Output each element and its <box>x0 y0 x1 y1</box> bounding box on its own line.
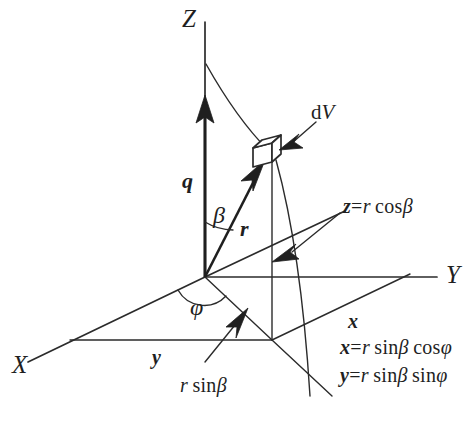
component-label-x: x <box>348 311 358 331</box>
component-label-y: y <box>152 347 161 367</box>
leader-dv <box>279 122 316 150</box>
callout-volume-element: dV <box>311 102 334 123</box>
vector-label-q: q <box>182 170 193 192</box>
z-comp-fn: cos <box>375 195 403 217</box>
eq-x-fn1: sin <box>374 336 398 358</box>
equation-y: y=r sinβ sinφ <box>340 365 448 385</box>
vector-q <box>196 95 214 277</box>
z-comp-arg: β <box>403 195 413 217</box>
z-comp-r: r <box>363 195 371 217</box>
vector-label-r: r <box>240 218 249 240</box>
eq-y-fn2: sin <box>412 364 436 386</box>
eq-y-lhs: y <box>340 364 349 386</box>
leader-z-component <box>272 213 340 262</box>
angle-label-beta: β <box>213 203 225 227</box>
base-edge-x <box>272 274 410 340</box>
eq-y-eq: = <box>349 364 361 386</box>
dv-d: d <box>311 100 322 124</box>
eq-x-r: r <box>362 336 370 358</box>
proj-r: r <box>180 374 188 396</box>
meridian-arc-lower <box>276 160 310 396</box>
dv-v: V <box>322 100 335 124</box>
callout-projection: r sinβ <box>180 375 227 395</box>
axis-label-x: X <box>12 352 27 377</box>
spherical-coordinates-figure: Z Y X q r β φ x y dV z=r cosβ r sinβ x=r… <box>0 0 476 427</box>
eq-x-lhs: x <box>340 336 350 358</box>
eq-x-arg1: β <box>399 336 409 358</box>
axis-label-z: Z <box>182 6 196 31</box>
eq-y-arg2: φ <box>436 364 447 386</box>
angle-label-phi: φ <box>190 295 203 319</box>
callout-z-component: z=r cosβ <box>343 196 413 216</box>
equation-x: x=r sinβ cosφ <box>340 337 452 357</box>
eq-x-fn2: cos <box>413 336 441 358</box>
z-comp-eq: = <box>351 195 363 217</box>
meridian-arc-upper <box>206 64 268 150</box>
proj-arg: β <box>217 374 227 396</box>
eq-y-arg1: β <box>397 364 407 386</box>
eq-y-r: r <box>361 364 369 386</box>
axis-label-y: Y <box>446 262 460 287</box>
proj-fn: sin <box>192 374 216 396</box>
leader-projection <box>205 308 248 362</box>
eq-y-fn1: sin <box>373 364 397 386</box>
eq-x-arg2: φ <box>441 336 452 358</box>
z-comp-lhs: z <box>343 195 351 217</box>
eq-x-eq: = <box>350 336 362 358</box>
